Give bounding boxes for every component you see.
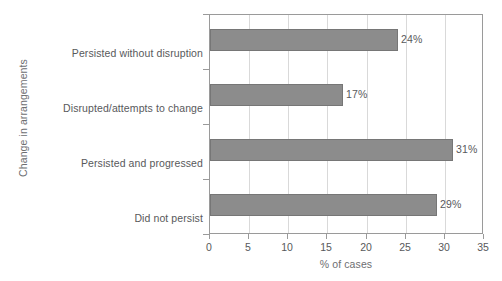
- x-tick-label-0: 0: [206, 241, 212, 253]
- x-tick-label-3: 15: [320, 241, 332, 253]
- bar-did-not-persist: [210, 194, 437, 216]
- x-axis-tick-15: [326, 234, 327, 239]
- x-tick-label-6: 30: [438, 241, 450, 253]
- y-tick-label-2: Persisted and progressed: [28, 157, 203, 169]
- bar-disrupted-attempts-to-change: [210, 84, 343, 106]
- value-label-2: 31%: [456, 143, 477, 155]
- bar-persisted-and-progressed: [210, 139, 453, 161]
- y-axis-category-labels: Persisted without disruption Disrupted/a…: [28, 14, 203, 234]
- value-label-3: 29%: [440, 198, 461, 210]
- value-label-1: 17%: [346, 88, 367, 100]
- x-axis-tick-35: [483, 234, 484, 239]
- bar-chart: Change in arrangements Persisted without…: [0, 0, 502, 281]
- x-axis-tick-5: [248, 234, 249, 239]
- y-tick-label-3: Did not persist: [28, 212, 203, 224]
- x-axis-tick-20: [366, 234, 367, 239]
- x-tick-label-7: 35: [477, 241, 489, 253]
- bar-persisted-without-disruption: [210, 29, 398, 51]
- x-axis-title: % of cases: [209, 258, 483, 270]
- y-tick-label-0: Persisted without disruption: [28, 47, 203, 59]
- x-axis-tick-0: [209, 234, 210, 239]
- x-tick-label-5: 25: [399, 241, 411, 253]
- x-axis-tick-25: [405, 234, 406, 239]
- y-tick-label-1: Disrupted/attempts to change: [28, 102, 203, 114]
- x-tick-label-4: 20: [360, 241, 372, 253]
- value-label-0: 24%: [401, 33, 422, 45]
- x-axis-tick-10: [287, 234, 288, 239]
- x-tick-label-2: 10: [281, 241, 293, 253]
- x-axis-tick-30: [444, 234, 445, 239]
- x-tick-label-1: 5: [245, 241, 251, 253]
